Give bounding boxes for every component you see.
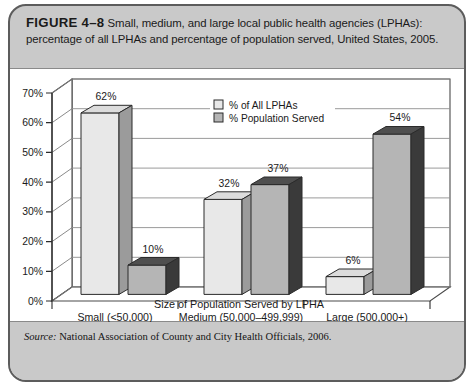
- chart-legend: % of All LPHAs % Population Served: [210, 95, 335, 125]
- y-tick-label-70: 70%: [22, 88, 43, 99]
- bar-value-medium-population-served: 37%: [268, 163, 289, 174]
- legend-label-all-lphas: % of All LPHAs: [229, 100, 298, 111]
- source-note: Source: National Association of County a…: [24, 331, 331, 342]
- source-value: National Association of County and City …: [59, 331, 331, 342]
- y-tick-label-20: 20%: [22, 236, 43, 247]
- bar-large-population-served: [373, 127, 424, 295]
- source-band: Source: National Association of County a…: [10, 322, 466, 382]
- bar-value-small-all-lphas: 62%: [96, 91, 117, 102]
- chart-panel: 0% 10% 20% 30% 40% 50% 60% 70% 62%: [10, 68, 466, 322]
- y-tick-label-60: 60%: [22, 117, 43, 128]
- y-tick-label-40: 40%: [22, 177, 43, 188]
- bar-small-population-served: [128, 258, 179, 295]
- bar-value-large-population-served: 54%: [390, 112, 411, 123]
- source-label: Source:: [24, 331, 57, 342]
- bar-small-all-lphas: [81, 105, 132, 294]
- figure-caption: FIGURE 4–8 Small, medium, and large loca…: [10, 6, 464, 68]
- y-tick-label-30: 30%: [22, 206, 43, 217]
- bar-medium-population-served: [251, 177, 302, 294]
- y-tick-label-10: 10%: [22, 266, 43, 277]
- bar-value-small-population-served: 10%: [143, 244, 164, 255]
- bar-large-all-lphas: [326, 269, 377, 294]
- legend-swatch-population-served: [214, 113, 223, 122]
- legend-swatch-all-lphas: [214, 100, 223, 109]
- y-tick-label-50: 50%: [22, 147, 43, 158]
- y-axis: 0% 10% 20% 30% 40% 50% 60% 70%: [22, 88, 52, 307]
- bar-value-medium-all-lphas: 32%: [219, 178, 240, 189]
- x-axis-title: Size of Population Served by LPHA: [10, 298, 466, 310]
- bar-chart: 0% 10% 20% 30% 40% 50% 60% 70% 62%: [10, 69, 466, 323]
- bar-value-large-all-lphas: 6%: [345, 255, 360, 266]
- legend-label-population-served: % Population Served: [229, 113, 324, 124]
- bar-medium-all-lphas: [204, 192, 255, 295]
- figure-number: FIGURE 4–8: [26, 15, 105, 30]
- figure-box: FIGURE 4–8 Small, medium, and large loca…: [8, 4, 466, 382]
